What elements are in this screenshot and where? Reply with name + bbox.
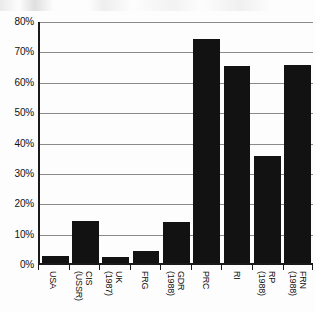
bar-slot [40, 22, 70, 265]
x-label-line1: UK [114, 271, 124, 283]
scan-artifact [0, 0, 315, 11]
bar[interactable] [284, 65, 311, 265]
y-tick-label: 30% [15, 169, 34, 179]
x-label-line2: (1988) [288, 271, 298, 296]
bar-chart: 80%70%60%50%40%30%20%10%0% USACIS(USSR)U… [0, 0, 315, 312]
y-tick-label: 60% [15, 78, 34, 88]
y-tick-label: 80% [15, 17, 34, 27]
x-label-cell: RP(1988) [252, 270, 283, 312]
x-axis-tick-label: UK(1987) [104, 271, 124, 296]
x-label-cell: FRG [130, 270, 161, 312]
x-label-line1: RP [267, 271, 277, 283]
x-label-line1: FRN [298, 271, 308, 289]
bar[interactable] [193, 39, 220, 265]
bars-layer [40, 22, 313, 265]
x-label-cell: PRC [191, 270, 222, 312]
bar-slot [131, 22, 161, 265]
x-label-line2: (1987) [104, 271, 114, 296]
x-axis-tick-label: PRC [201, 271, 211, 289]
x-axis-tick-label: USA [48, 271, 58, 289]
x-axis-tick-label: CIS(USSR) [74, 271, 94, 301]
x-axis-tick-label: RP(1988) [257, 271, 277, 296]
x-label-cell: GDR(1988) [160, 270, 191, 312]
x-label-cell: CIS(USSR) [69, 270, 100, 312]
y-tick-label: 40% [15, 139, 34, 149]
x-label-line1: FRG [140, 271, 150, 289]
bar[interactable] [224, 66, 251, 265]
x-axis-tick-label: RI [232, 271, 242, 280]
x-label-line2: (USSR) [74, 271, 84, 301]
x-axis-tick-label: FRG [140, 271, 150, 289]
y-tick-label: 70% [15, 47, 34, 57]
x-label-line1: RI [232, 271, 242, 280]
bar[interactable] [254, 156, 281, 265]
x-axis-tick-label: GDR(1988) [166, 271, 186, 296]
x-label-line1: USA [48, 271, 58, 289]
x-label-cell: RI [221, 270, 252, 312]
y-tick-label: 20% [15, 199, 34, 209]
bar-slot [161, 22, 191, 265]
y-tick-label: 0% [20, 260, 34, 270]
x-label-cell: USA [38, 270, 69, 312]
x-label-line2: (1988) [166, 271, 176, 296]
bar-slot [283, 22, 313, 265]
x-label-cell: UK(1987) [99, 270, 130, 312]
x-label-line1: PRC [201, 271, 211, 289]
bar-slot [252, 22, 282, 265]
x-label-line1: GDR [176, 271, 186, 290]
bar[interactable] [72, 221, 99, 265]
bar-slot [192, 22, 222, 265]
x-label-cell: FRN(1988) [283, 270, 314, 312]
y-tick-label: 50% [15, 108, 34, 118]
bar[interactable] [163, 222, 190, 265]
x-label-line2: (1988) [257, 271, 267, 296]
bar-slot [70, 22, 100, 265]
x-axis-tick-label: FRN(1988) [288, 271, 308, 296]
bar-slot [101, 22, 131, 265]
plot-area [38, 22, 313, 265]
y-axis: 80%70%60%50%40%30%20%10%0% [0, 0, 38, 312]
y-tick-label: 10% [15, 230, 34, 240]
x-axis-labels: USACIS(USSR)UK(1987)FRGGDR(1988)PRCRIRP(… [38, 270, 313, 312]
x-label-line1: CIS [84, 271, 94, 285]
bar-slot [222, 22, 252, 265]
